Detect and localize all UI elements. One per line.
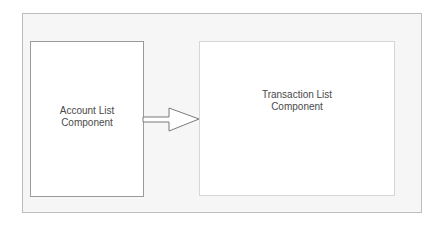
account-list-component-label: Account List Component bbox=[60, 105, 114, 129]
account-list-component-node: Account List Component bbox=[30, 41, 144, 197]
transaction-list-component-label: Transaction List Component bbox=[262, 89, 332, 113]
transaction-list-component-node: Transaction List Component bbox=[199, 41, 395, 196]
arrow-right-icon bbox=[140, 100, 202, 136]
